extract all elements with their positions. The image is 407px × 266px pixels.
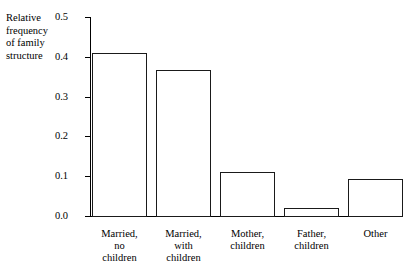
x-tick-label: Father, children xyxy=(275,228,348,252)
y-axis-line xyxy=(90,17,91,217)
y-tick-mark xyxy=(85,17,90,18)
y-tick-mark xyxy=(85,176,90,177)
y-tick-label-text: 0.1 xyxy=(55,171,68,182)
y-tick-label-text: 0.0 xyxy=(55,211,68,222)
y-tick-mark xyxy=(85,216,90,217)
bar xyxy=(156,70,211,217)
x-tick-label: Mother, children xyxy=(211,228,284,252)
y-tick-label-text: 0.2 xyxy=(55,131,68,142)
x-tick-label: Married, no children xyxy=(83,228,156,265)
bar xyxy=(348,179,403,217)
bar xyxy=(284,208,339,217)
y-tick-label-text: 0.5 xyxy=(55,12,68,23)
y-tick-label-text: 0.3 xyxy=(55,92,68,103)
y-tick-mark xyxy=(85,57,90,58)
y-tick-mark xyxy=(85,97,90,98)
x-tick-label: Married, with children xyxy=(147,228,220,265)
bar xyxy=(92,53,147,217)
y-tick-mark xyxy=(85,136,90,137)
x-tick-label: Other xyxy=(339,228,407,240)
bar xyxy=(220,172,275,217)
y-tick-label-text: 0.4 xyxy=(55,52,68,63)
